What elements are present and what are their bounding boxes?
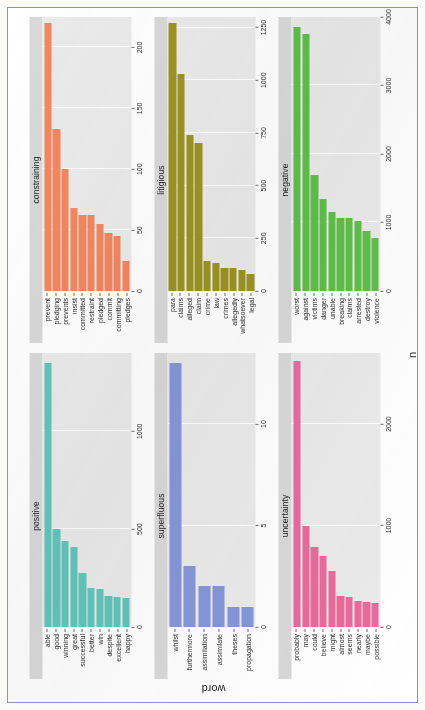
plot-panel	[167, 353, 256, 627]
bar-row	[168, 353, 182, 627]
bar	[44, 23, 51, 291]
bar	[212, 586, 224, 627]
bar-row	[86, 353, 95, 627]
bar-row	[112, 17, 121, 291]
category-tick-label: claims	[345, 293, 352, 318]
category-tick-label: para	[168, 293, 175, 312]
bar	[371, 603, 378, 627]
category-tick-label: probably	[292, 629, 299, 661]
bar	[44, 363, 51, 627]
bar	[246, 274, 253, 291]
bar-row	[78, 17, 87, 291]
bar-row	[292, 353, 301, 627]
bar-series	[291, 353, 380, 627]
category-tick-label: win	[96, 629, 103, 645]
bar	[52, 529, 59, 627]
category-tick-label: winning	[61, 629, 68, 658]
bar	[345, 597, 352, 627]
bar-row	[86, 17, 95, 291]
bar	[52, 129, 59, 291]
category-tick-label: pledging	[52, 293, 59, 324]
bar	[122, 598, 129, 627]
bar	[229, 268, 236, 291]
bar-row	[362, 17, 371, 291]
bar-row	[194, 17, 203, 291]
bar	[328, 571, 335, 627]
bar	[87, 216, 94, 292]
plot-panel	[291, 17, 380, 291]
category-tick-label: whatsoever	[238, 293, 245, 334]
bar-row	[353, 17, 362, 291]
bar	[169, 363, 181, 627]
facet-superfluous: superfluouswhilstfurthermoreassimilation…	[154, 353, 270, 679]
category-tick-label: danger	[319, 293, 326, 320]
bar	[362, 231, 369, 291]
bar	[371, 238, 378, 291]
category-tick-label: prevent	[43, 293, 50, 321]
bar	[78, 573, 85, 627]
value-axis: 0510	[255, 353, 269, 627]
bar	[241, 607, 253, 627]
bar	[302, 34, 309, 291]
x-axis-title: n	[405, 352, 417, 358]
bar-row	[60, 353, 69, 627]
bar-row	[220, 17, 229, 291]
value-tick-label: 0	[380, 289, 391, 293]
plot-panel	[42, 17, 131, 291]
category-tick-label: better	[87, 629, 94, 652]
value-tick-label: 10	[255, 420, 266, 428]
bar-row	[310, 353, 319, 627]
category-tick-label: theses	[230, 629, 237, 655]
bar-row	[344, 17, 353, 291]
bar-row	[95, 17, 104, 291]
value-tick-label: 2000	[380, 416, 391, 432]
category-tick-label: possible	[372, 629, 379, 660]
category-tick-label: destroy	[363, 293, 370, 321]
bar-row	[237, 17, 246, 291]
category-axis: whilstfurthermoreassimilationassimilatet…	[167, 627, 256, 679]
category-tick-label: successful	[78, 629, 85, 667]
category-axis: probablymaycouldbelievemightalmostseemsn…	[291, 627, 380, 679]
category-tick-label: alleged	[185, 293, 192, 321]
value-tick-label: 150	[131, 103, 142, 115]
bar	[220, 268, 227, 291]
category-tick-label: happy	[123, 629, 130, 653]
value-axis: 01000200030004000	[380, 17, 394, 291]
facet-panel-area: ablegoodwinninggreatsuccessfulbetterwind…	[42, 353, 131, 679]
faceted-bar-chart: word n positiveablegoodwinninggreatsucce…	[7, 7, 418, 703]
category-tick-label: violence	[372, 293, 379, 324]
value-tick-label: 0	[131, 625, 142, 629]
bar	[310, 175, 317, 291]
category-tick-label: pledged	[96, 293, 103, 323]
bar-row	[211, 353, 225, 627]
category-tick-label: almost	[337, 629, 344, 655]
bar	[104, 233, 111, 291]
value-axis: 010002000	[380, 353, 394, 627]
value-tick-label: 1000	[131, 424, 142, 440]
bar-series	[42, 17, 131, 291]
bar	[238, 270, 245, 291]
category-tick-label: furthermore	[185, 629, 192, 670]
bar-row	[168, 17, 177, 291]
value-axis: 05001000	[131, 353, 145, 627]
bar	[96, 589, 103, 627]
value-tick-label: 750	[255, 127, 266, 139]
category-tick-label: commit	[105, 293, 112, 321]
bar-series	[167, 353, 256, 627]
value-axis: 050100150200	[131, 17, 145, 291]
bar-row	[121, 17, 130, 291]
category-tick-label: able	[43, 629, 50, 647]
bar	[61, 541, 68, 627]
bar-row	[327, 17, 336, 291]
category-tick-label: assimilation	[200, 629, 207, 671]
bar-row	[228, 17, 237, 291]
value-tick-label: 1000	[380, 518, 391, 534]
bar-row	[112, 353, 121, 627]
bar	[203, 262, 210, 292]
bar-row	[318, 17, 327, 291]
value-tick-label: 4000	[380, 9, 391, 25]
value-tick-label: 50	[131, 226, 142, 234]
bar-row	[95, 353, 104, 627]
bar	[122, 261, 129, 291]
category-tick-label: good	[52, 629, 59, 650]
